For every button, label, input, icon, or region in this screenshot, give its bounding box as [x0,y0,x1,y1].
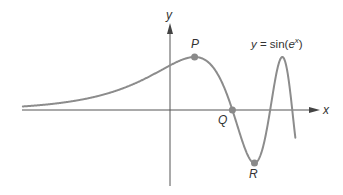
point-q-label: Q [218,113,227,127]
function-label-eq: = sin( [257,38,289,50]
point-p-label: P [191,37,199,51]
function-graph: P Q R x y y = sin(ex) [0,0,343,195]
y-axis-label: y [165,8,173,22]
point-p-marker [191,54,198,61]
x-axis-label: x [322,103,330,117]
point-r-marker [251,160,258,167]
point-r-label: R [249,167,258,181]
y-axis-arrow-icon [167,23,173,34]
point-q-marker [229,107,236,114]
function-label-close: ) [299,38,303,50]
x-axis-arrow-icon [309,107,320,113]
function-label: y = sin(ex) [250,36,303,50]
